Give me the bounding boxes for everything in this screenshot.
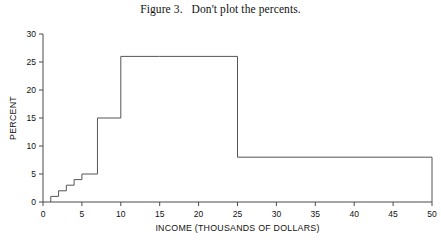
x-axis-title: INCOME (THOUSANDS OF DOLLARS) bbox=[155, 223, 319, 233]
histogram-outline bbox=[51, 56, 432, 202]
x-tick-label: 0 bbox=[41, 209, 46, 219]
y-tick-label: 15 bbox=[27, 113, 37, 123]
histogram-svg: 051015202530 05101520253035404550 INCOME… bbox=[0, 0, 441, 246]
x-tick-label: 5 bbox=[80, 209, 85, 219]
y-axis-title: PERCENT bbox=[8, 96, 18, 140]
y-tick-label: 20 bbox=[27, 85, 37, 95]
y-tick-label: 30 bbox=[27, 29, 37, 39]
y-tick-label: 25 bbox=[27, 57, 37, 67]
histogram-plot: 051015202530 05101520253035404550 INCOME… bbox=[0, 0, 441, 246]
bars bbox=[51, 56, 432, 202]
x-tick-label: 40 bbox=[349, 209, 359, 219]
x-tick-label: 25 bbox=[233, 209, 243, 219]
x-axis: 05101520253035404550 bbox=[41, 202, 437, 219]
x-tick-label: 35 bbox=[311, 209, 321, 219]
x-tick-label: 45 bbox=[388, 209, 398, 219]
x-tick-label: 10 bbox=[116, 209, 126, 219]
y-tick-label: 10 bbox=[27, 141, 37, 151]
x-tick-label: 20 bbox=[194, 209, 204, 219]
x-tick-label: 30 bbox=[272, 209, 282, 219]
y-axis: 051015202530 bbox=[27, 29, 43, 207]
y-tick-label: 5 bbox=[31, 169, 36, 179]
x-tick-label: 15 bbox=[155, 209, 165, 219]
y-tick-label: 0 bbox=[31, 197, 36, 207]
x-tick-label: 50 bbox=[427, 209, 437, 219]
